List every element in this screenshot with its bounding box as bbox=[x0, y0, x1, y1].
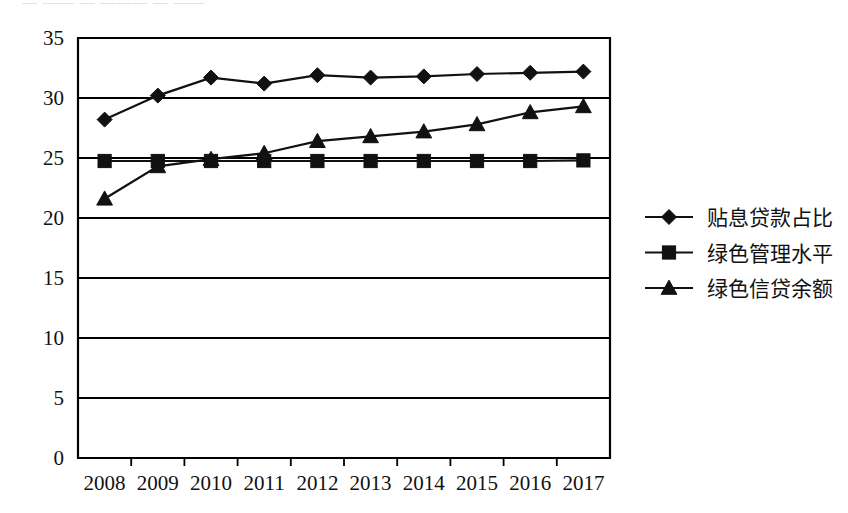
y-tick-label: 20 bbox=[43, 206, 64, 230]
y-tick-label: 10 bbox=[43, 326, 64, 350]
x-tick-label: 2012 bbox=[296, 471, 338, 495]
chart-figure: — —— — ——— — —— 05101520253035 200820092… bbox=[0, 0, 848, 513]
line-chart: 05101520253035 2008200920102011201220132… bbox=[0, 0, 848, 513]
legend-label: 绿色信贷余额 bbox=[707, 277, 833, 301]
x-tick-label: 2008 bbox=[84, 471, 126, 495]
chart-legend: 贴息贷款占比绿色管理水平绿色信贷余额 bbox=[645, 206, 833, 301]
data-point-square-marker bbox=[524, 154, 537, 167]
x-tick-label: 2014 bbox=[403, 471, 446, 495]
data-point-diamond-marker bbox=[257, 76, 272, 91]
data-point-square-marker bbox=[311, 154, 324, 167]
x-tick-label: 2017 bbox=[562, 471, 604, 495]
gridlines bbox=[78, 98, 610, 398]
x-axis-tick-marks bbox=[131, 458, 557, 466]
y-tick-label: 30 bbox=[43, 86, 64, 110]
data-point-square-marker bbox=[662, 246, 675, 259]
series-layer bbox=[97, 64, 592, 205]
data-point-diamond-marker bbox=[576, 64, 591, 79]
series-3 bbox=[97, 99, 592, 206]
x-tick-label: 2011 bbox=[244, 471, 285, 495]
y-tick-label: 35 bbox=[43, 26, 64, 50]
legend-label: 贴息贷款占比 bbox=[707, 206, 833, 230]
data-point-triangle-marker bbox=[576, 99, 592, 113]
legend-entry[interactable]: 绿色信贷余额 bbox=[645, 277, 833, 301]
x-tick-label: 2009 bbox=[137, 471, 179, 495]
series-line bbox=[105, 72, 584, 120]
data-point-diamond-marker bbox=[662, 210, 677, 225]
data-point-diamond-marker bbox=[204, 70, 219, 85]
x-tick-label: 2015 bbox=[456, 471, 498, 495]
x-tick-label: 2016 bbox=[509, 471, 551, 495]
data-point-triangle-marker bbox=[97, 191, 113, 205]
data-point-diamond-marker bbox=[97, 112, 112, 127]
legend-label: 绿色管理水平 bbox=[707, 242, 833, 266]
legend-entry[interactable]: 贴息贷款占比 bbox=[645, 206, 833, 230]
x-tick-label: 2010 bbox=[190, 471, 232, 495]
y-tick-label: 15 bbox=[43, 266, 64, 290]
y-tick-label: 0 bbox=[54, 446, 65, 470]
data-point-square-marker bbox=[577, 154, 590, 167]
data-point-square-marker bbox=[470, 154, 483, 167]
data-point-diamond-marker bbox=[523, 65, 538, 80]
series-1 bbox=[97, 64, 591, 127]
data-point-diamond-marker bbox=[470, 67, 485, 82]
x-axis-tick-labels: 2008200920102011201220132014201520162017 bbox=[84, 471, 605, 495]
y-tick-label: 5 bbox=[54, 386, 65, 410]
data-point-diamond-marker bbox=[150, 88, 165, 103]
y-axis-tick-labels: 05101520253035 bbox=[43, 26, 64, 470]
data-point-square-marker bbox=[417, 154, 430, 167]
legend-entry[interactable]: 绿色管理水平 bbox=[645, 242, 833, 266]
x-tick-label: 2013 bbox=[350, 471, 392, 495]
data-point-diamond-marker bbox=[310, 68, 325, 83]
data-point-square-marker bbox=[364, 154, 377, 167]
data-point-square-marker bbox=[98, 154, 111, 167]
data-point-diamond-marker bbox=[416, 69, 431, 84]
series-line bbox=[105, 160, 584, 161]
data-point-diamond-marker bbox=[363, 70, 378, 85]
y-tick-label: 25 bbox=[43, 146, 64, 170]
series-line bbox=[105, 106, 584, 198]
